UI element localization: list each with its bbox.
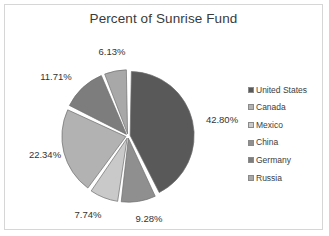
legend-item[interactable]: Russia xyxy=(248,169,324,187)
legend-item[interactable]: China xyxy=(248,134,324,152)
chart-frame: Percent of Sunrise Fund 42.80%9.28%7.74%… xyxy=(4,4,323,230)
legend-item[interactable]: Canada xyxy=(248,99,324,117)
legend-item-label: United States xyxy=(256,86,307,95)
pie-data-label: 22.34% xyxy=(29,149,61,160)
pie-data-label: 11.71% xyxy=(40,71,72,82)
pie-data-label: 42.80% xyxy=(206,114,238,125)
legend-swatch-icon xyxy=(248,122,254,128)
legend-item-label: Canada xyxy=(256,103,286,112)
legend-item[interactable]: Germany xyxy=(248,151,324,169)
legend-swatch-icon xyxy=(248,87,254,93)
pie-data-label: 9.28% xyxy=(136,213,163,224)
legend-swatch-icon xyxy=(248,175,254,181)
chart-legend: United StatesCanadaMexicoChinaGermanyRus… xyxy=(248,81,324,187)
legend-swatch-icon xyxy=(248,140,254,146)
pie-data-label: 6.13% xyxy=(99,46,126,57)
legend-item-label: Mexico xyxy=(256,121,283,130)
legend-item-label: Russia xyxy=(256,174,282,183)
legend-item[interactable]: Mexico xyxy=(248,116,324,134)
legend-swatch-icon xyxy=(248,104,254,110)
legend-item-label: Germany xyxy=(256,156,291,165)
legend-item[interactable]: United States xyxy=(248,81,324,99)
pie-data-label: 7.74% xyxy=(75,209,102,220)
legend-item-label: China xyxy=(256,138,278,147)
legend-swatch-icon xyxy=(248,157,254,163)
